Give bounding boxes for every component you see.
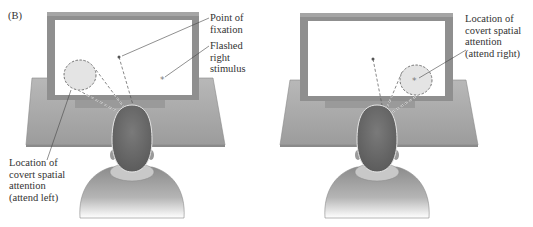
head <box>357 105 397 172</box>
right-panel: * <box>280 13 478 218</box>
fixation-point <box>118 56 121 59</box>
attention-right-label: Location of covert spatial attention (at… <box>465 13 521 59</box>
panel-label: (B) <box>8 10 22 22</box>
stimulus-marker: * <box>412 76 417 86</box>
head <box>112 105 152 172</box>
stimulus-label: Flashed right stimulus <box>210 40 246 75</box>
covert-attention-diagram: * * <box>0 0 533 227</box>
attention-spot <box>64 60 96 90</box>
fixation-point <box>372 58 375 61</box>
attention-left-label: Location of covert spatial attention (at… <box>9 157 65 203</box>
stimulus-marker: * <box>160 75 165 85</box>
fixation-label: Point of fixation <box>210 12 244 35</box>
monitor <box>47 12 199 100</box>
